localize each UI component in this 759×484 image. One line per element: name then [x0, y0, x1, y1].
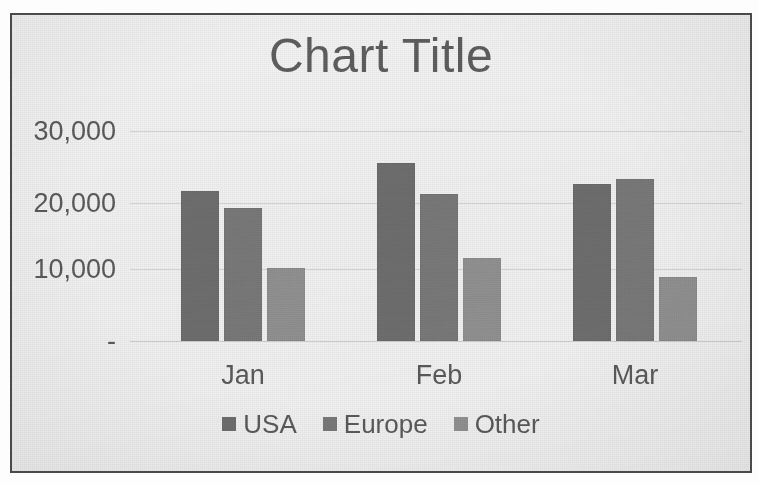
- ytick-label-30000: 30,000: [33, 116, 116, 147]
- chart-legend: USA Europe Other: [12, 411, 750, 437]
- legend-label-other: Other: [475, 411, 540, 437]
- legend-swatch-icon-usa: [222, 417, 236, 431]
- bar-jan-europe[interactable]: [224, 208, 262, 341]
- legend-item-usa[interactable]: USA: [222, 411, 296, 437]
- bar-feb-europe[interactable]: [420, 194, 458, 341]
- ytick-label-10000: 10,000: [33, 254, 116, 285]
- scanned-page: Chart Title 30,000 20,000 10,000 -: [0, 0, 759, 484]
- legend-item-other[interactable]: Other: [454, 411, 540, 437]
- ytick-label-20000: 20,000: [33, 188, 116, 219]
- bar-feb-other[interactable]: [463, 258, 501, 341]
- category-label-jan: Jan: [221, 360, 265, 391]
- plot-area: 30,000 20,000 10,000 -: [130, 116, 742, 342]
- legend-item-europe[interactable]: Europe: [323, 411, 428, 437]
- chart-frame: Chart Title 30,000 20,000 10,000 -: [10, 13, 752, 473]
- ytick-label-zero: -: [107, 326, 116, 357]
- bar-mar-europe[interactable]: [616, 179, 654, 341]
- bar-mar-other[interactable]: [659, 277, 697, 341]
- category-label-mar: Mar: [612, 360, 659, 391]
- legend-swatch-icon-europe: [323, 417, 337, 431]
- bar-jan-other[interactable]: [267, 268, 305, 342]
- bar-feb-usa[interactable]: [377, 163, 415, 341]
- bars-layer: [130, 116, 742, 342]
- category-axis: Jan Feb Mar: [130, 360, 742, 402]
- bar-jan-usa[interactable]: [181, 191, 219, 342]
- legend-label-europe: Europe: [344, 411, 428, 437]
- bar-mar-usa[interactable]: [573, 184, 611, 342]
- legend-label-usa: USA: [243, 411, 296, 437]
- chart-title: Chart Title: [12, 31, 750, 81]
- legend-swatch-icon-other: [454, 417, 468, 431]
- category-label-feb: Feb: [416, 360, 463, 391]
